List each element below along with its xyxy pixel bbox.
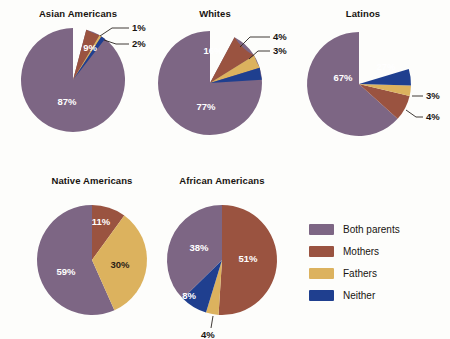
- pie-label-both-parents: 87%: [57, 96, 77, 107]
- legend-label-both-parents: Both parents: [343, 224, 400, 235]
- legend-label-neither: Neither: [343, 290, 375, 301]
- pie-svg-whites: 77% 16% 4% 3%: [148, 20, 298, 140]
- pie-svg-native-americans: 59% 11% 30%: [24, 188, 169, 333]
- callout-line-fathers: [100, 28, 129, 36]
- pie-chart-whites: 77% 16% 4% 3%: [148, 20, 298, 140]
- callout-line-neither: [406, 110, 423, 117]
- pie-svg-asian-americans: 87% 9% 1% 2%: [8, 20, 158, 140]
- callout-label-fathers: 4%: [273, 31, 287, 42]
- callout-line-fathers: [211, 316, 213, 328]
- chart-legend: Both parents Mothers Fathers Neither: [309, 218, 444, 306]
- pie-svg-latinos: 67% 27% 3% 4%: [296, 20, 450, 145]
- pie-label-both-parents: 77%: [196, 101, 216, 112]
- legend-swatch-both-parents: [309, 224, 334, 235]
- pie-label-both-parents: 67%: [333, 72, 353, 83]
- pie-label-mothers: 9%: [83, 42, 97, 53]
- legend-label-mothers: Mothers: [343, 246, 379, 257]
- legend-item-mothers: Mothers: [309, 240, 444, 262]
- callout-label-neither: 2%: [132, 38, 146, 49]
- pie-label-mothers: 27%: [376, 61, 396, 72]
- pie-label-both-parents: 38%: [189, 242, 209, 253]
- legend-swatch-neither: [309, 290, 334, 301]
- callout-label-fathers: 3%: [426, 90, 440, 101]
- pie-chart-figure: Asian Americans 87% 9% 1% 2% Whites: [0, 0, 450, 339]
- pie-label-fathers: 30%: [110, 259, 130, 270]
- chart-title-asian-americans: Asian Americans: [39, 8, 117, 19]
- pie-label-mothers: 51%: [238, 253, 258, 264]
- pie-label-both-parents: 59%: [56, 266, 76, 277]
- callout-label-fathers: 1%: [132, 22, 146, 33]
- legend-item-neither: Neither: [309, 284, 444, 306]
- pie-label-mothers: 11%: [92, 216, 111, 227]
- chart-title-african-americans: African Americans: [179, 175, 264, 186]
- pie-chart-latinos: 67% 27% 3% 4%: [296, 20, 450, 145]
- legend-swatch-mothers: [309, 246, 334, 257]
- legend-label-fathers: Fathers: [343, 268, 377, 279]
- pie-chart-native-americans: 59% 11% 30%: [24, 188, 169, 333]
- chart-title-native-americans: Native Americans: [52, 175, 133, 186]
- pie-chart-african-americans: 38% 51% 8% 4%: [154, 188, 304, 338]
- chart-title-latinos: Latinos: [346, 8, 380, 19]
- pie-label-neither: 8%: [182, 290, 196, 301]
- pie-label-mothers: 16%: [203, 45, 223, 56]
- chart-title-whites: Whites: [199, 8, 231, 19]
- callout-label-fathers: 4%: [201, 329, 215, 339]
- callout-label-neither: 3%: [273, 45, 287, 56]
- legend-item-fathers: Fathers: [309, 262, 444, 284]
- legend-item-both-parents: Both parents: [309, 218, 444, 240]
- pie-slice-both-parents: [21, 28, 125, 132]
- callout-label-neither: 4%: [426, 111, 440, 122]
- legend-swatch-fathers: [309, 268, 334, 279]
- pie-svg-african-americans: 38% 51% 8% 4%: [154, 188, 304, 338]
- pie-chart-asian-americans: 87% 9% 1% 2%: [8, 20, 158, 140]
